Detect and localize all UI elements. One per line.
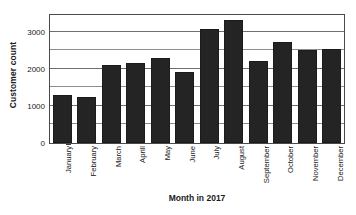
x-tick-label-january: January	[65, 146, 73, 173]
x-tick-label-may: May	[164, 146, 172, 160]
x-axis-tick-labels: JanuaryFebruaryMarchAprillMayJuneJulyAug…	[49, 145, 345, 191]
x-tick-slot: November	[296, 145, 321, 191]
x-tick-slot: June	[172, 145, 197, 191]
x-tick-label-july: July	[213, 146, 221, 160]
x-tick-slot: Aprill	[123, 145, 148, 191]
bar-january	[53, 95, 72, 143]
bar-march	[102, 65, 121, 143]
y-tick-label-0: 0	[41, 140, 45, 148]
bar-slot	[271, 15, 296, 143]
x-tick-label-december: December	[337, 146, 345, 181]
bar-slot	[75, 15, 100, 143]
x-tick-label-august: August	[238, 146, 246, 170]
bar-slot	[246, 15, 271, 143]
bar-august	[224, 20, 243, 143]
bar-slot	[148, 15, 173, 143]
bar-aprill	[126, 63, 145, 143]
x-tick-slot: March	[98, 145, 123, 191]
bar-slot	[295, 15, 320, 143]
x-tick-label-june: June	[189, 146, 197, 162]
x-tick-slot: September	[246, 145, 271, 191]
bar-slot	[222, 15, 247, 143]
y-tick-label-2000: 2000	[27, 66, 45, 74]
y-tick-label-1000: 1000	[27, 103, 45, 111]
plot-area	[49, 14, 345, 144]
x-tick-label-february: February	[90, 146, 98, 176]
x-tick-label-september: September	[263, 146, 271, 183]
x-tick-label-march: March	[115, 146, 123, 167]
bar-series	[50, 15, 344, 143]
y-axis-tick-labels: 0100020003000	[22, 14, 48, 144]
bar-slot	[124, 15, 149, 143]
bar-october	[273, 42, 292, 143]
bar-june	[175, 72, 194, 143]
bar-november	[298, 50, 317, 143]
bar-february	[77, 97, 96, 143]
bar-may	[151, 58, 170, 143]
y-axis-title-text: Customer count	[8, 42, 18, 109]
x-tick-slot: July	[197, 145, 222, 191]
bar-september	[249, 61, 268, 143]
x-tick-slot: December	[320, 145, 345, 191]
x-tick-label-october: October	[287, 146, 295, 173]
x-tick-slot: February	[74, 145, 99, 191]
x-tick-slot: May	[148, 145, 173, 191]
bar-slot	[173, 15, 198, 143]
y-tick-label-3000: 3000	[27, 29, 45, 37]
bar-july	[200, 29, 219, 143]
bar-slot	[197, 15, 222, 143]
x-tick-label-aprill: Aprill	[139, 146, 147, 163]
x-tick-slot: August	[222, 145, 247, 191]
x-axis-title: Month in 2017	[49, 193, 345, 203]
bar-chart-figure: Customer count 0100020003000 JanuaryFebr…	[0, 0, 356, 215]
x-tick-label-november: November	[312, 146, 320, 181]
bar-december	[322, 49, 341, 143]
y-axis-title: Customer count	[2, 0, 24, 150]
bar-slot	[320, 15, 345, 143]
bar-slot	[50, 15, 75, 143]
x-tick-slot: October	[271, 145, 296, 191]
x-tick-slot: January	[49, 145, 74, 191]
bar-slot	[99, 15, 124, 143]
